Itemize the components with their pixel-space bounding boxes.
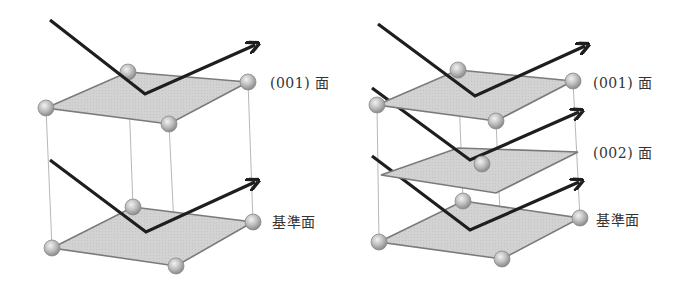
- label-plane-001-left: (001) 面: [270, 72, 330, 92]
- atom: [450, 62, 466, 78]
- label-base-plane-left: 基準面: [272, 211, 316, 231]
- atom: [161, 116, 177, 132]
- atom: [240, 74, 256, 90]
- diffraction-diagram: [0, 0, 690, 298]
- label-plane-001-right: (001) 面: [593, 72, 653, 92]
- base-plane: [52, 199, 253, 266]
- atom: [125, 199, 141, 215]
- atom: [488, 113, 504, 129]
- label-plane-002-right: (002) 面: [593, 142, 653, 162]
- left-figure: [38, 20, 261, 274]
- atom: [572, 210, 588, 226]
- atom: [38, 100, 54, 116]
- atom: [369, 97, 385, 113]
- atom: [245, 214, 261, 230]
- right-figure: [369, 24, 588, 267]
- label-base-plane-right: 基準面: [596, 209, 640, 229]
- atom: [168, 258, 184, 274]
- atom: [494, 251, 510, 267]
- atom: [565, 73, 581, 89]
- atom: [455, 193, 471, 209]
- atom-center: [474, 156, 490, 172]
- atom: [371, 234, 387, 250]
- atom: [44, 240, 60, 256]
